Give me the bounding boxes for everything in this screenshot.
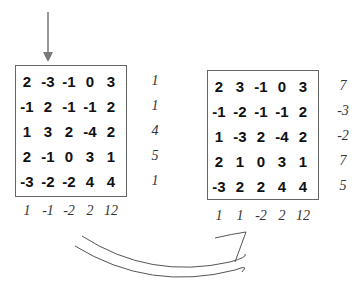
row-sum: 7 [330,153,356,169]
matrix-cell: 2 [288,128,318,145]
row-sum: -2 [330,128,356,144]
matrix-cell: 2 [96,123,126,140]
matrix-cell: 2 [96,98,126,115]
matrix-cell: 4 [288,178,318,195]
row-sum: 5 [142,148,168,164]
down-arrow-icon [43,12,53,62]
curved-right-arrow-icon [75,232,246,277]
row-sum: 1 [142,98,168,114]
matrix-cell: 4 [96,173,126,190]
row-sum: 1 [142,173,168,189]
row-sum: 7 [330,78,356,94]
col-sum: 12 [290,208,316,224]
matrix-cell: 3 [288,78,318,95]
row-sum: -3 [330,103,356,119]
col-sum: 12 [98,203,124,219]
matrix-cell: 3 [96,73,126,90]
row-sum: 5 [330,178,356,194]
matrix-cell: 1 [288,153,318,170]
matrix-cell: 2 [288,103,318,120]
row-sum: 1 [142,73,168,89]
matrix-cell: 1 [96,148,126,165]
row-sum: 4 [142,123,168,139]
